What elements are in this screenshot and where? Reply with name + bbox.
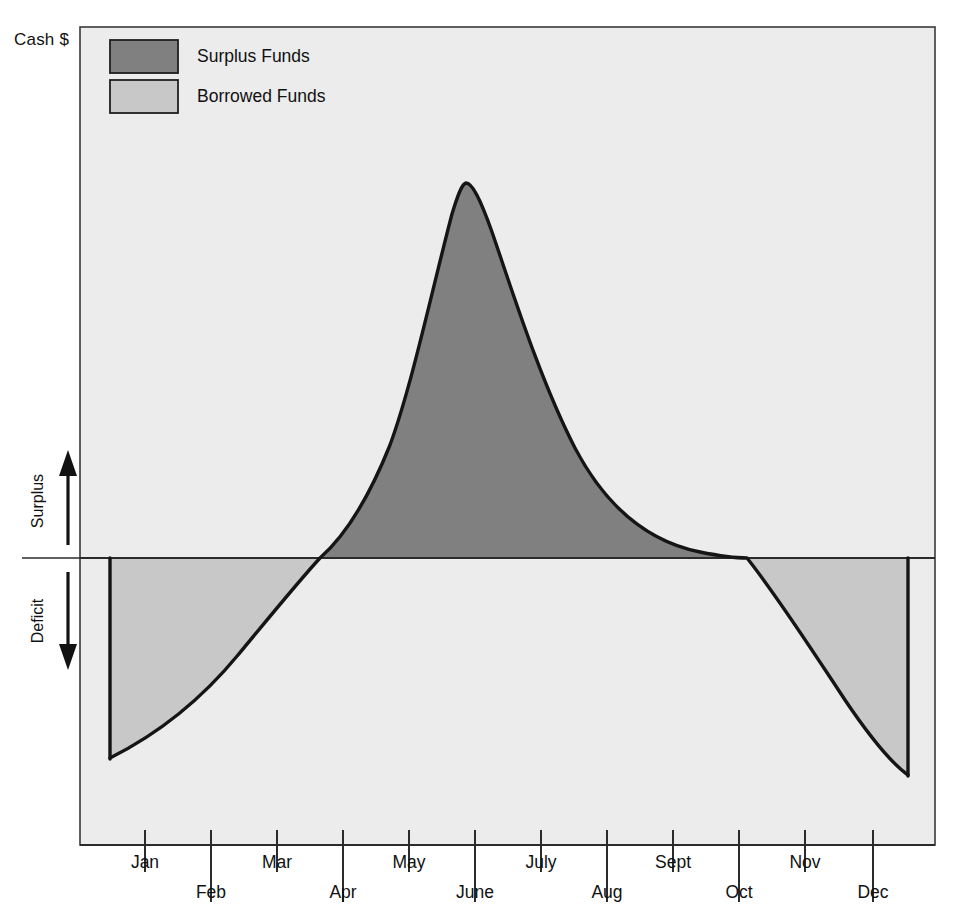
legend-item-label-borrowed: Borrowed Funds xyxy=(197,86,325,107)
deficit-region-label: Deficit xyxy=(29,581,47,661)
surplus-region-label: Surplus xyxy=(29,461,47,541)
legend-swatch-surplus xyxy=(110,40,178,73)
x-tick-label-may: May xyxy=(392,852,425,873)
arrow-up-icon xyxy=(59,450,77,545)
x-tick-label-feb: Feb xyxy=(196,882,226,903)
x-tick-label-nov: Nov xyxy=(789,852,820,873)
x-tick-label-oct: Oct xyxy=(725,882,752,903)
legend-swatch-borrowed xyxy=(110,80,178,113)
x-tick-label-apr: Apr xyxy=(329,882,356,903)
arrow-down-icon xyxy=(59,572,77,670)
cash-flow-chart: Cash $ Surplus Funds Borrowed Funds Surp… xyxy=(0,0,962,917)
x-tick-label-jan: Jan xyxy=(131,852,159,873)
x-tick-label-sept: Sept xyxy=(655,852,691,873)
x-tick-label-aug: Aug xyxy=(591,882,622,903)
x-tick-label-june: June xyxy=(456,882,494,903)
chart-canvas xyxy=(0,0,962,917)
x-tick-label-dec: Dec xyxy=(857,882,888,903)
y-axis-title: Cash $ xyxy=(14,30,69,50)
x-tick-label-mar: Mar xyxy=(262,852,292,873)
x-tick-label-july: July xyxy=(525,852,556,873)
legend-item-label-surplus: Surplus Funds xyxy=(197,46,310,67)
